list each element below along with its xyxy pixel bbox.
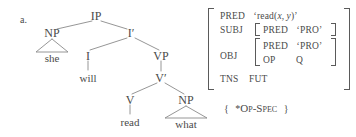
avm-subj-attr-pred: PRED xyxy=(263,25,288,35)
tree-leaf-will: will xyxy=(79,73,96,84)
tree-node-v-bar: V′ xyxy=(155,72,166,84)
constraint-text: Op-Spec xyxy=(240,102,277,114)
syntax-tree-lines xyxy=(0,0,210,137)
avm-obj-attr-pred: PRED xyxy=(263,41,288,51)
tree-node-np-subj: NP xyxy=(44,27,59,39)
tree-node-vp: VP xyxy=(153,50,168,62)
tree-node-ip: IP xyxy=(91,10,102,22)
tree-node-i-bar: I′ xyxy=(128,27,135,39)
avm-outer-left-bracket xyxy=(208,8,214,90)
avm-outer-right-bracket xyxy=(344,8,350,90)
avm-subj-right-bracket xyxy=(331,23,336,36)
tree-node-v: V xyxy=(126,94,135,106)
tree-node-i: I xyxy=(86,50,90,62)
avm-attr-tns: TNS xyxy=(220,74,239,84)
tree-node-np-obj: NP xyxy=(178,94,193,106)
constraint-close-brace: } xyxy=(284,103,289,114)
avm-attr-obj: OBJ xyxy=(220,51,238,61)
avm-obj-right-bracket xyxy=(331,38,336,66)
avm-obj-value-op: Q xyxy=(296,55,303,65)
constraint-open-brace: { xyxy=(224,103,229,114)
avm-subj-left-bracket xyxy=(255,23,260,36)
feature-structure: PRED ‘read(x, y)’ SUBJ PRED ‘PRO’ OBJ PR… xyxy=(208,6,350,92)
constraint-expression: { *Op-Spec } xyxy=(224,102,288,114)
avm-obj-left-bracket xyxy=(255,38,260,66)
figure-root: a. IP NP she I′ I will VP V xyxy=(0,0,356,137)
tree-leaf-what: what xyxy=(175,119,196,130)
avm-attr-subj: SUBJ xyxy=(220,25,243,35)
tree-leaf-read: read xyxy=(121,117,140,128)
avm-value-pred: ‘read(x, y)’ xyxy=(254,11,298,21)
tree-leaf-she: she xyxy=(45,53,60,64)
avm-obj-attr-op: OP xyxy=(263,55,276,65)
avm-subj-value-pred: ‘PRO’ xyxy=(297,25,323,35)
avm-value-tns: FUT xyxy=(249,74,268,84)
avm-obj-value-pred: ‘PRO’ xyxy=(297,41,323,51)
avm-attr-pred: PRED xyxy=(220,11,245,21)
